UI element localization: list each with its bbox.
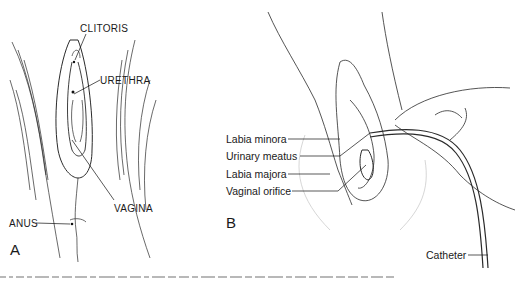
figure-caption-clipped <box>0 276 523 281</box>
label-vagina: VAGINA <box>114 203 153 214</box>
label-urethra: URETHRA <box>100 75 150 86</box>
panel-letter-a: A <box>10 241 20 258</box>
label-vaginal-orifice: Vaginal orifice <box>226 185 291 197</box>
panel-b-catheterization: Labia minora Urinary meatus Labia majora… <box>180 0 523 268</box>
panel-letter-b: B <box>226 214 236 231</box>
panel-a-external-anatomy: CLITORIS URETHRA VAGINA ANUS A <box>0 0 180 268</box>
label-labia-majora: Labia majora <box>226 168 287 180</box>
label-urinary-meatus: Urinary meatus <box>226 150 297 162</box>
label-anus: ANUS <box>9 218 38 229</box>
label-clitoris: CLITORIS <box>80 23 128 34</box>
label-labia-minora: Labia minora <box>226 133 287 145</box>
label-catheter: Catheter <box>426 249 466 261</box>
